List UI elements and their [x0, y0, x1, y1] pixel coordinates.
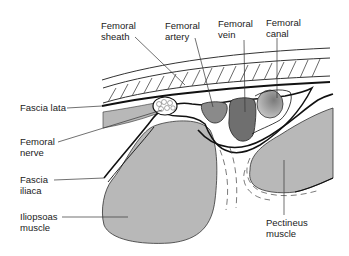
femoral-vein-shape — [229, 98, 256, 141]
label-fascia-iliaca: Fascia iliaca — [20, 174, 48, 196]
femoral-artery-shape — [201, 102, 227, 123]
label-femoral-artery: Femoral artery — [165, 20, 200, 42]
label-femoral-sheath: Femoral sheath — [101, 20, 136, 42]
label-femoral-canal: Femoral canal — [266, 17, 301, 39]
femoral-canal-shape — [257, 90, 283, 118]
iliopsoas-muscle-shape — [102, 121, 216, 244]
skin-layers — [102, 48, 330, 103]
label-fascia-lata: Fascia lata — [20, 102, 66, 113]
label-iliopsoas-muscle: Iliopsoas muscle — [20, 211, 58, 233]
label-pectineus-muscle: Pectineus muscle — [266, 217, 308, 239]
label-femoral-vein: Femoral vein — [218, 18, 253, 40]
label-femoral-nerve: Femoral nerve — [20, 136, 55, 158]
